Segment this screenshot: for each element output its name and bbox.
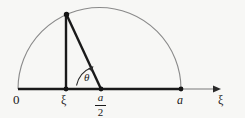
semicircle-arc: [18, 8, 181, 89]
point-right-end-a: [179, 87, 184, 92]
point-foot-xi: [64, 87, 69, 92]
axis-origin-label: 0: [13, 93, 20, 106]
axis-arrowhead-icon: [213, 85, 221, 92]
geometry-figure: 0 ξ a 2 a ξ θ: [0, 0, 245, 118]
tick-label-a: a: [177, 94, 183, 106]
fraction-denominator: 2: [98, 107, 104, 118]
tick-label-a-over-2: a 2: [95, 92, 106, 118]
figure-canvas: [0, 0, 245, 118]
tick-label-xi: ξ: [61, 94, 66, 106]
point-apex: [64, 12, 69, 17]
fraction-numerator: a: [98, 92, 104, 104]
angle-label-theta: θ: [84, 72, 89, 83]
axis-label-xi: ξ: [218, 94, 223, 106]
